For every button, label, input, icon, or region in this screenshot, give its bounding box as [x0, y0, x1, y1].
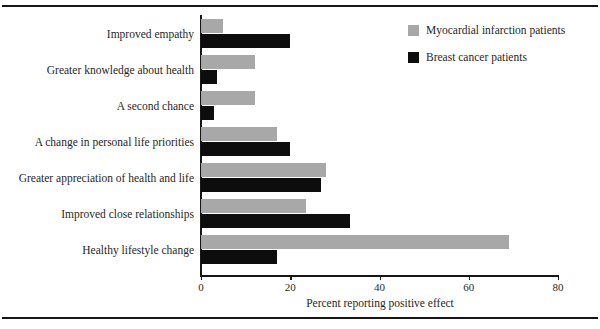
bar-breast-cancer — [201, 142, 290, 156]
bar-myocardial-infarction — [201, 199, 306, 213]
x-axis-tick — [558, 275, 559, 280]
category-label: A second chance — [0, 99, 194, 113]
legend-swatch-icon-myocardial-infarction — [408, 25, 419, 36]
bar-breast-cancer — [201, 250, 277, 264]
category-label: Greater knowledge about health — [0, 63, 194, 77]
bar-breast-cancer — [201, 106, 214, 120]
legend-label-breast-cancer: Breast cancer patients — [426, 51, 527, 64]
x-axis-tick-label: 40 — [360, 281, 400, 294]
category-label: Healthy lifestyle change — [0, 243, 194, 257]
x-axis-tick — [469, 275, 470, 280]
bar-myocardial-infarction — [201, 55, 255, 69]
bar-breast-cancer — [201, 214, 350, 228]
category-label: Greater appreciation of health and life — [0, 171, 194, 185]
chart-legend: Myocardial infarction patients Breast ca… — [408, 24, 565, 78]
bar-myocardial-infarction — [201, 19, 223, 33]
top-divider-rule — [2, 5, 598, 7]
x-axis-tick — [380, 275, 381, 280]
bar-myocardial-infarction — [201, 127, 277, 141]
bar-myocardial-infarction — [201, 163, 326, 177]
legend-swatch-icon-breast-cancer — [408, 52, 419, 63]
x-axis-tick-label: 0 — [181, 281, 221, 294]
x-axis-tick-label: 60 — [449, 281, 489, 294]
legend-label-myocardial-infarction: Myocardial infarction patients — [426, 24, 565, 37]
legend-item-myocardial-infarction: Myocardial infarction patients — [408, 24, 565, 37]
bar-breast-cancer — [201, 178, 321, 192]
bottom-divider-rule — [2, 317, 598, 319]
bar-myocardial-infarction — [201, 235, 509, 249]
x-axis-title: Percent reporting positive effect — [201, 297, 559, 309]
bar-myocardial-infarction — [201, 91, 255, 105]
category-label: A change in personal life priorities — [0, 135, 194, 149]
category-label: Improved close relationships — [0, 207, 194, 221]
x-axis-tick-label: 80 — [538, 281, 578, 294]
bar-breast-cancer — [201, 70, 217, 84]
x-axis-tick — [201, 275, 202, 280]
x-axis-tick-label: 20 — [270, 281, 310, 294]
chart-figure: 020406080 Improved empathyGreater knowle… — [0, 0, 600, 329]
legend-item-breast-cancer: Breast cancer patients — [408, 51, 565, 64]
x-axis-tick — [290, 275, 291, 280]
bar-breast-cancer — [201, 34, 290, 48]
category-label: Improved empathy — [0, 27, 194, 41]
